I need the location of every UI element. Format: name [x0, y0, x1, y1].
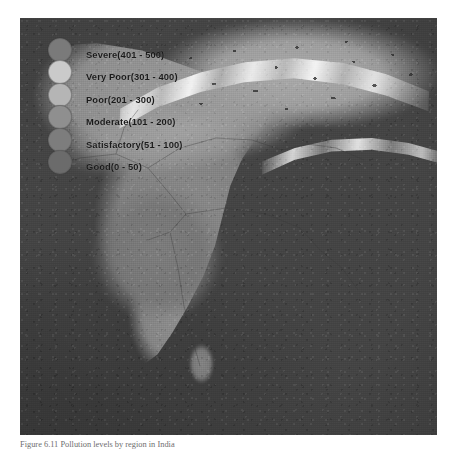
- legend-swatch-severe-icon: [48, 38, 72, 62]
- legend-label-moderate: Moderate(101 - 200): [86, 116, 175, 127]
- legend-item-satisfactory[interactable]: Satisfactory(51 - 100): [48, 128, 238, 150]
- legend-label-satisfactory: Satisfactory(51 - 100): [86, 139, 183, 150]
- legend-swatch-satisfactory-icon: [48, 128, 72, 152]
- legend-item-good[interactable]: Good(0 - 50): [48, 150, 238, 172]
- legend-item-severe[interactable]: Severe(401 - 500): [48, 38, 238, 60]
- legend-swatch-poor-icon: [48, 83, 72, 107]
- legend-label-poor: Poor(201 - 300): [86, 94, 155, 105]
- legend-swatch-moderate-icon: [48, 105, 72, 129]
- legend-item-poor[interactable]: Poor(201 - 300): [48, 83, 238, 105]
- legend-item-moderate[interactable]: Moderate(101 - 200): [48, 105, 238, 127]
- legend-label-good: Good(0 - 50): [86, 161, 142, 172]
- air-quality-legend: Severe(401 - 500) Very Poor(301 - 400) P…: [48, 38, 238, 172]
- legend-label-severe: Severe(401 - 500): [86, 49, 164, 60]
- figure-caption: Figure 6.11 Pollution levels by region i…: [20, 440, 440, 449]
- figure-root: Severe(401 - 500) Very Poor(301 - 400) P…: [0, 0, 459, 451]
- legend-swatch-very-poor-icon: [48, 60, 72, 84]
- pollution-level-map[interactable]: Severe(401 - 500) Very Poor(301 - 400) P…: [20, 18, 437, 435]
- legend-item-very-poor[interactable]: Very Poor(301 - 400): [48, 60, 238, 82]
- legend-label-very-poor: Very Poor(301 - 400): [86, 71, 178, 82]
- legend-swatch-good-icon: [48, 150, 72, 174]
